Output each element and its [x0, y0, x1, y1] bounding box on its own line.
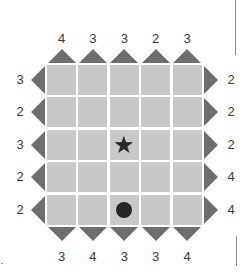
- right-clue: 2: [223, 73, 239, 87]
- arrow-down-icon: [48, 227, 76, 241]
- arrow-right-icon: [204, 66, 218, 94]
- grid-cell[interactable]: [141, 65, 170, 95]
- arrow-left-icon: [31, 163, 45, 191]
- top-clue: 3: [179, 32, 195, 46]
- arrow-down-icon: [173, 227, 201, 241]
- arrow-right-icon: [204, 98, 218, 126]
- arrow-up-icon: [48, 49, 76, 63]
- grid-cell[interactable]: [78, 97, 107, 127]
- top-clue: 3: [85, 32, 101, 46]
- speck: [1, 263, 3, 264]
- grid-cell[interactable]: [47, 130, 76, 160]
- arrow-up-icon: [173, 49, 201, 63]
- bottom-clue: 4: [85, 250, 101, 264]
- left-clue: 3: [12, 73, 28, 87]
- grid-cell[interactable]: [110, 162, 139, 192]
- star-icon: ★: [110, 133, 139, 157]
- arrow-up-icon: [79, 49, 107, 63]
- grid-cell[interactable]: [173, 65, 202, 95]
- right-clue: 4: [223, 203, 239, 217]
- arrow-up-icon: [110, 49, 138, 63]
- right-clue: 2: [223, 138, 239, 152]
- arrow-right-icon: [204, 163, 218, 191]
- grid-cell[interactable]: [141, 130, 170, 160]
- left-clue: 2: [12, 203, 28, 217]
- top-clue: 3: [116, 32, 132, 46]
- top-clue: 2: [148, 32, 164, 46]
- bottom-clue: 3: [54, 250, 70, 264]
- grid-cell[interactable]: [78, 130, 107, 160]
- arrow-up-icon: [142, 49, 170, 63]
- divider-line: [236, 236, 237, 266]
- grid-cell[interactable]: [47, 162, 76, 192]
- arrow-right-icon: [204, 196, 218, 224]
- circle-icon: [116, 202, 132, 218]
- grid-cell[interactable]: [78, 65, 107, 95]
- grid-cell[interactable]: [173, 162, 202, 192]
- left-clue: 3: [12, 138, 28, 152]
- bottom-clue: 3: [148, 250, 164, 264]
- divider-line: [235, 0, 236, 55]
- grid-cell[interactable]: [141, 195, 170, 225]
- grid-cell[interactable]: [173, 97, 202, 127]
- grid-cell[interactable]: [110, 97, 139, 127]
- grid-cell[interactable]: [141, 97, 170, 127]
- grid-cell[interactable]: [110, 65, 139, 95]
- grid-cell[interactable]: [173, 195, 202, 225]
- right-clue: 2: [223, 105, 239, 119]
- arrow-down-icon: [79, 227, 107, 241]
- grid-cell[interactable]: [47, 97, 76, 127]
- arrow-down-icon: [110, 227, 138, 241]
- grid-cell[interactable]: [47, 65, 76, 95]
- left-clue: 2: [12, 170, 28, 184]
- grid-cell[interactable]: [141, 162, 170, 192]
- arrow-right-icon: [204, 131, 218, 159]
- grid-cell[interactable]: [47, 195, 76, 225]
- left-clue: 2: [12, 105, 28, 119]
- top-clue: 4: [54, 32, 70, 46]
- right-clue: 4: [223, 170, 239, 184]
- arrow-left-icon: [31, 131, 45, 159]
- arrow-left-icon: [31, 66, 45, 94]
- grid-cell[interactable]: [78, 162, 107, 192]
- bottom-clue: 4: [179, 250, 195, 264]
- grid-cell[interactable]: [78, 195, 107, 225]
- arrow-left-icon: [31, 98, 45, 126]
- grid-cell[interactable]: [173, 130, 202, 160]
- arrow-down-icon: [142, 227, 170, 241]
- arrow-left-icon: [31, 196, 45, 224]
- bottom-clue: 3: [116, 250, 132, 264]
